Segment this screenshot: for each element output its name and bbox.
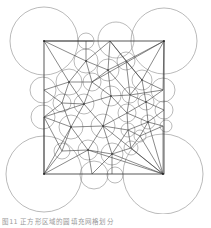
figure-caption: 图11 正方形区域的圆填充网格划分 bbox=[2, 216, 114, 226]
circle-packing-mesh-diagram bbox=[0, 0, 211, 214]
interior-circles bbox=[53, 49, 155, 165]
triangulation-edges bbox=[44, 41, 164, 174]
corner-circles bbox=[6, 7, 203, 214]
square-boundary bbox=[44, 41, 164, 174]
mesh-svg bbox=[0, 0, 211, 214]
